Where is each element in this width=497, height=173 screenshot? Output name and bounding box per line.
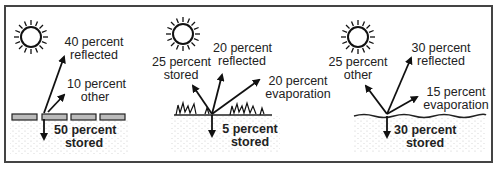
sun-icon (166, 17, 200, 51)
sun-icon (341, 20, 375, 54)
label-reflected: 40 percent reflected (64, 36, 124, 62)
label-stored: 30 percent stored (394, 124, 456, 150)
label-reflected: 20 percent reflected (213, 42, 271, 68)
label-stored-up: 25 percent stored (152, 56, 210, 82)
label-stored: 5 percent stored (222, 123, 278, 149)
sun-icon (14, 20, 48, 54)
label-stored: 50 percent stored (54, 124, 114, 150)
label-evaporation: 20 percent evaporation (262, 75, 334, 101)
label-reflected: 30 percent reflected (411, 42, 471, 68)
label-other: 10 percent other (67, 78, 123, 104)
label-other: 25 percent other (328, 56, 388, 82)
label-evaporation: 15 percent evaporation (420, 86, 492, 112)
